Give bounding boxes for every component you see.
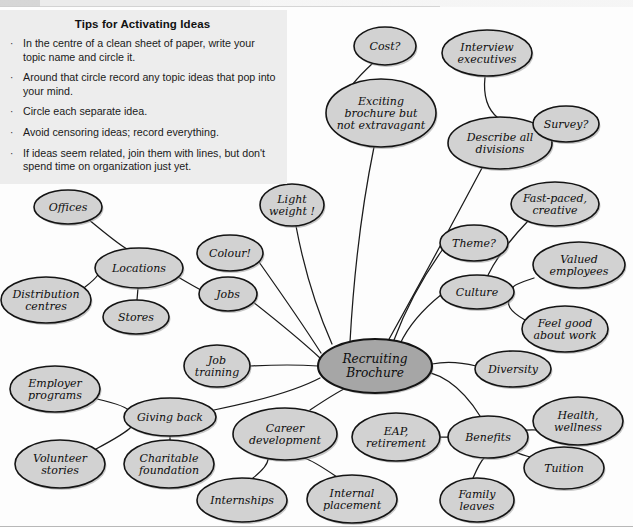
bullet-icon: · — [10, 147, 13, 161]
tips-list-item: ·Circle each separate idea. — [6, 105, 279, 119]
mindmap-edge — [88, 219, 127, 249]
mindmap-node[interactable]: Locations — [95, 248, 185, 290]
bullet-icon: · — [10, 71, 13, 85]
node-label: Health,wellness — [554, 409, 602, 434]
tips-list-item-text: Around that circle record any topic idea… — [23, 71, 276, 97]
mindmap-node[interactable]: Jobs — [199, 277, 259, 313]
mindmap-node[interactable]: Culture — [440, 275, 516, 311]
mindmap-node[interactable]: Interviewexecutives — [442, 30, 534, 78]
node-label: Stores — [118, 311, 154, 324]
mindmap-edge — [304, 458, 337, 477]
mindmap-edge — [350, 147, 374, 342]
mindmap-node[interactable]: Internalplacement — [307, 475, 399, 525]
tips-list-item: ·Avoid censoring ideas; record everythin… — [6, 126, 279, 140]
node-label: Locations — [111, 262, 166, 275]
mindmap-node[interactable]: Lightweight ! — [260, 184, 326, 228]
tips-list-item-text: Circle each separate idea. — [23, 105, 147, 117]
node-label: Charitablefoundation — [138, 452, 199, 477]
mindmap-node[interactable]: Careerdevelopment — [233, 408, 339, 462]
tips-list-item: ·If ideas seem related, join them with l… — [6, 147, 279, 174]
mindmap-node[interactable]: Giving back — [124, 398, 218, 438]
mindmap-edge — [485, 77, 498, 118]
node-label: Familyleaves — [457, 488, 496, 513]
node-label: Giving back — [137, 411, 203, 424]
mindmap-node[interactable]: Health,wellness — [533, 397, 625, 447]
node-label: Describe alldivisions — [466, 131, 534, 156]
mindmap-node[interactable]: Benefits — [448, 416, 530, 460]
mindmap-edge — [473, 458, 484, 478]
node-label: Theme? — [452, 237, 496, 250]
node-label: Culture — [456, 286, 499, 299]
mindmap-edge — [400, 294, 442, 344]
node-label: Tuition — [544, 462, 584, 475]
mindmap-node[interactable]: Tuition — [524, 447, 606, 491]
mindmap-node[interactable]: Jobtraining — [184, 345, 252, 389]
node-label: Diversity — [487, 363, 539, 376]
mindmap-node[interactable]: Familyleaves — [440, 478, 516, 524]
mindmap-node[interactable]: Fast-paced,creative — [511, 182, 601, 228]
mindmap-edge — [432, 362, 476, 366]
tips-box-title: Tips for Activating Ideas — [6, 18, 279, 30]
bullet-icon: · — [10, 126, 13, 140]
node-label: Employerprograms — [27, 377, 82, 402]
mindmap-node[interactable]: Employerprograms — [10, 366, 102, 414]
node-label: Internalplacement — [323, 487, 382, 512]
mindmap-node[interactable]: Volunteerstories — [15, 440, 107, 490]
mindmap-node[interactable]: Offices — [34, 190, 104, 226]
node-label: RecruitingBrochure — [341, 352, 407, 380]
mindmap-node[interactable]: Internships — [197, 478, 289, 524]
node-label: Benefits — [464, 431, 511, 444]
node-label: Interviewexecutives — [458, 41, 517, 66]
tips-box: Tips for Activating Ideas ·In the centre… — [0, 10, 287, 184]
mindmap-edge — [513, 278, 534, 288]
tips-list-item-text: If ideas seem related, join them with li… — [23, 147, 265, 173]
mindmap-edge — [97, 399, 130, 412]
node-label: Cost? — [369, 40, 400, 53]
node-label: Fast-paced,creative — [522, 192, 587, 217]
mindmap-edge — [259, 262, 321, 353]
mindmap-node[interactable]: Colour! — [197, 235, 265, 273]
tips-list-item: ·Around that circle record any topic ide… — [6, 71, 279, 98]
mindmap-node[interactable]: Excitingbrochure butnot extravagant — [326, 79, 438, 149]
mindmap-node[interactable]: Theme? — [440, 225, 510, 263]
mindmap-edge — [394, 249, 443, 340]
mindmap-node[interactable]: Diversity — [475, 351, 553, 389]
mindmap-edge — [296, 226, 332, 344]
bullet-icon: · — [10, 105, 13, 119]
node-label: Jobs — [214, 288, 240, 301]
tips-list-item: ·In the centre of a clean sheet of paper… — [6, 37, 279, 64]
tips-list: ·In the centre of a clean sheet of paper… — [6, 37, 279, 174]
node-label: Survey? — [544, 118, 589, 131]
mindmap-node[interactable]: Valuedemployees — [533, 242, 627, 290]
mindmap-node[interactable]: Charitablefoundation — [124, 440, 216, 490]
mindmap-node[interactable]: Stores — [103, 300, 171, 336]
mindmap-node[interactable]: Cost? — [354, 27, 418, 67]
tips-list-item-text: In the centre of a clean sheet of paper,… — [23, 37, 255, 63]
mindmap-node[interactable]: Feel goodabout work — [522, 306, 610, 354]
mindmap-edge — [253, 459, 268, 478]
bullet-icon: · — [10, 37, 13, 51]
mindmap-edge — [96, 427, 131, 449]
mindmap-node[interactable]: EAP,retirement — [352, 413, 442, 463]
tips-list-item-text: Avoid censoring ideas; record everything… — [23, 126, 219, 138]
mindmap-edge — [253, 302, 320, 358]
node-label: Internships — [209, 494, 274, 507]
node-label: Feel goodabout work — [533, 317, 597, 342]
node-label: Offices — [49, 201, 88, 214]
mindmap-node[interactable]: Distributioncentres — [1, 277, 93, 325]
mindmap-page: Tips for Activating Ideas ·In the centre… — [0, 0, 633, 527]
mindmap-center-node[interactable]: RecruitingBrochure — [318, 339, 434, 395]
node-label: Colour! — [209, 247, 251, 260]
mindmap-edge — [250, 365, 318, 366]
mindmap-edge — [178, 277, 201, 290]
